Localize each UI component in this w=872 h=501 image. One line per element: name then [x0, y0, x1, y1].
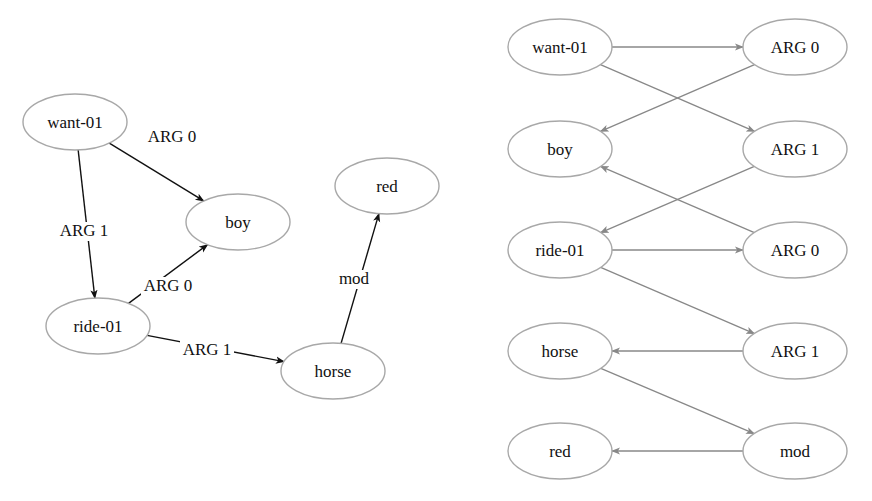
right-concept-node-horse-label: horse	[542, 342, 579, 361]
right-concept-node-want-01: want-01	[508, 19, 612, 75]
amr-graph-figure: ARG 0ARG 1ARG 0ARG 1mod want-01boyride-0…	[0, 0, 872, 501]
left-edge-label: ARG 0	[144, 276, 193, 295]
left-node-horse: horse	[281, 343, 385, 399]
left-node-boy: boy	[186, 194, 290, 250]
right-relation-node-arg0: ARG 0	[743, 19, 847, 75]
right-relation-node-mod: mod	[743, 423, 847, 479]
left-node-want-01-label: want-01	[47, 113, 103, 132]
right-edge-c-ride-to-r-arg1b	[601, 267, 755, 333]
right-concept-node-horse: horse	[508, 323, 612, 379]
right-relation-node-arg1-label: ARG 1	[771, 140, 820, 159]
right-relation-node-arg0-label: ARG 0	[771, 241, 820, 260]
right-concept-node-ride-01: ride-01	[508, 222, 612, 278]
left-edge-label: ARG 1	[60, 221, 109, 240]
left-edge-label: ARG 0	[148, 127, 197, 146]
right-concept-node-boy: boy	[508, 121, 612, 177]
left-edge-want-01-to-boy	[109, 143, 203, 201]
right-concept-node-boy-label: boy	[547, 140, 573, 159]
right-relation-node-arg1: ARG 1	[743, 323, 847, 379]
right-graph-nodes: want-01boyride-01horseredARG 0ARG 1ARG 0…	[508, 19, 847, 479]
right-relation-node-arg0: ARG 0	[743, 222, 847, 278]
left-node-ride-01: ride-01	[46, 298, 150, 354]
left-node-red-label: red	[376, 177, 398, 196]
right-concept-node-ride-01-label: ride-01	[535, 241, 584, 260]
right-relation-node-mod-label: mod	[780, 442, 811, 461]
left-node-boy-label: boy	[225, 213, 251, 232]
right-edge-c-horse-to-r-mod	[601, 368, 754, 433]
left-edge-label: ARG 1	[183, 340, 232, 359]
left-node-horse-label: horse	[315, 362, 352, 381]
right-concept-node-red: red	[508, 423, 612, 479]
left-node-ride-01-label: ride-01	[73, 317, 122, 336]
left-node-want-01: want-01	[23, 94, 127, 150]
left-node-red: red	[335, 158, 439, 214]
right-relation-node-arg1: ARG 1	[743, 121, 847, 177]
right-relation-node-arg0-label: ARG 0	[771, 38, 820, 57]
right-concept-node-red-label: red	[549, 442, 571, 461]
right-relation-node-arg1-label: ARG 1	[771, 342, 820, 361]
right-concept-node-want-01-label: want-01	[532, 38, 588, 57]
left-edge-label: mod	[339, 269, 370, 288]
right-graph-edges	[600, 47, 754, 451]
